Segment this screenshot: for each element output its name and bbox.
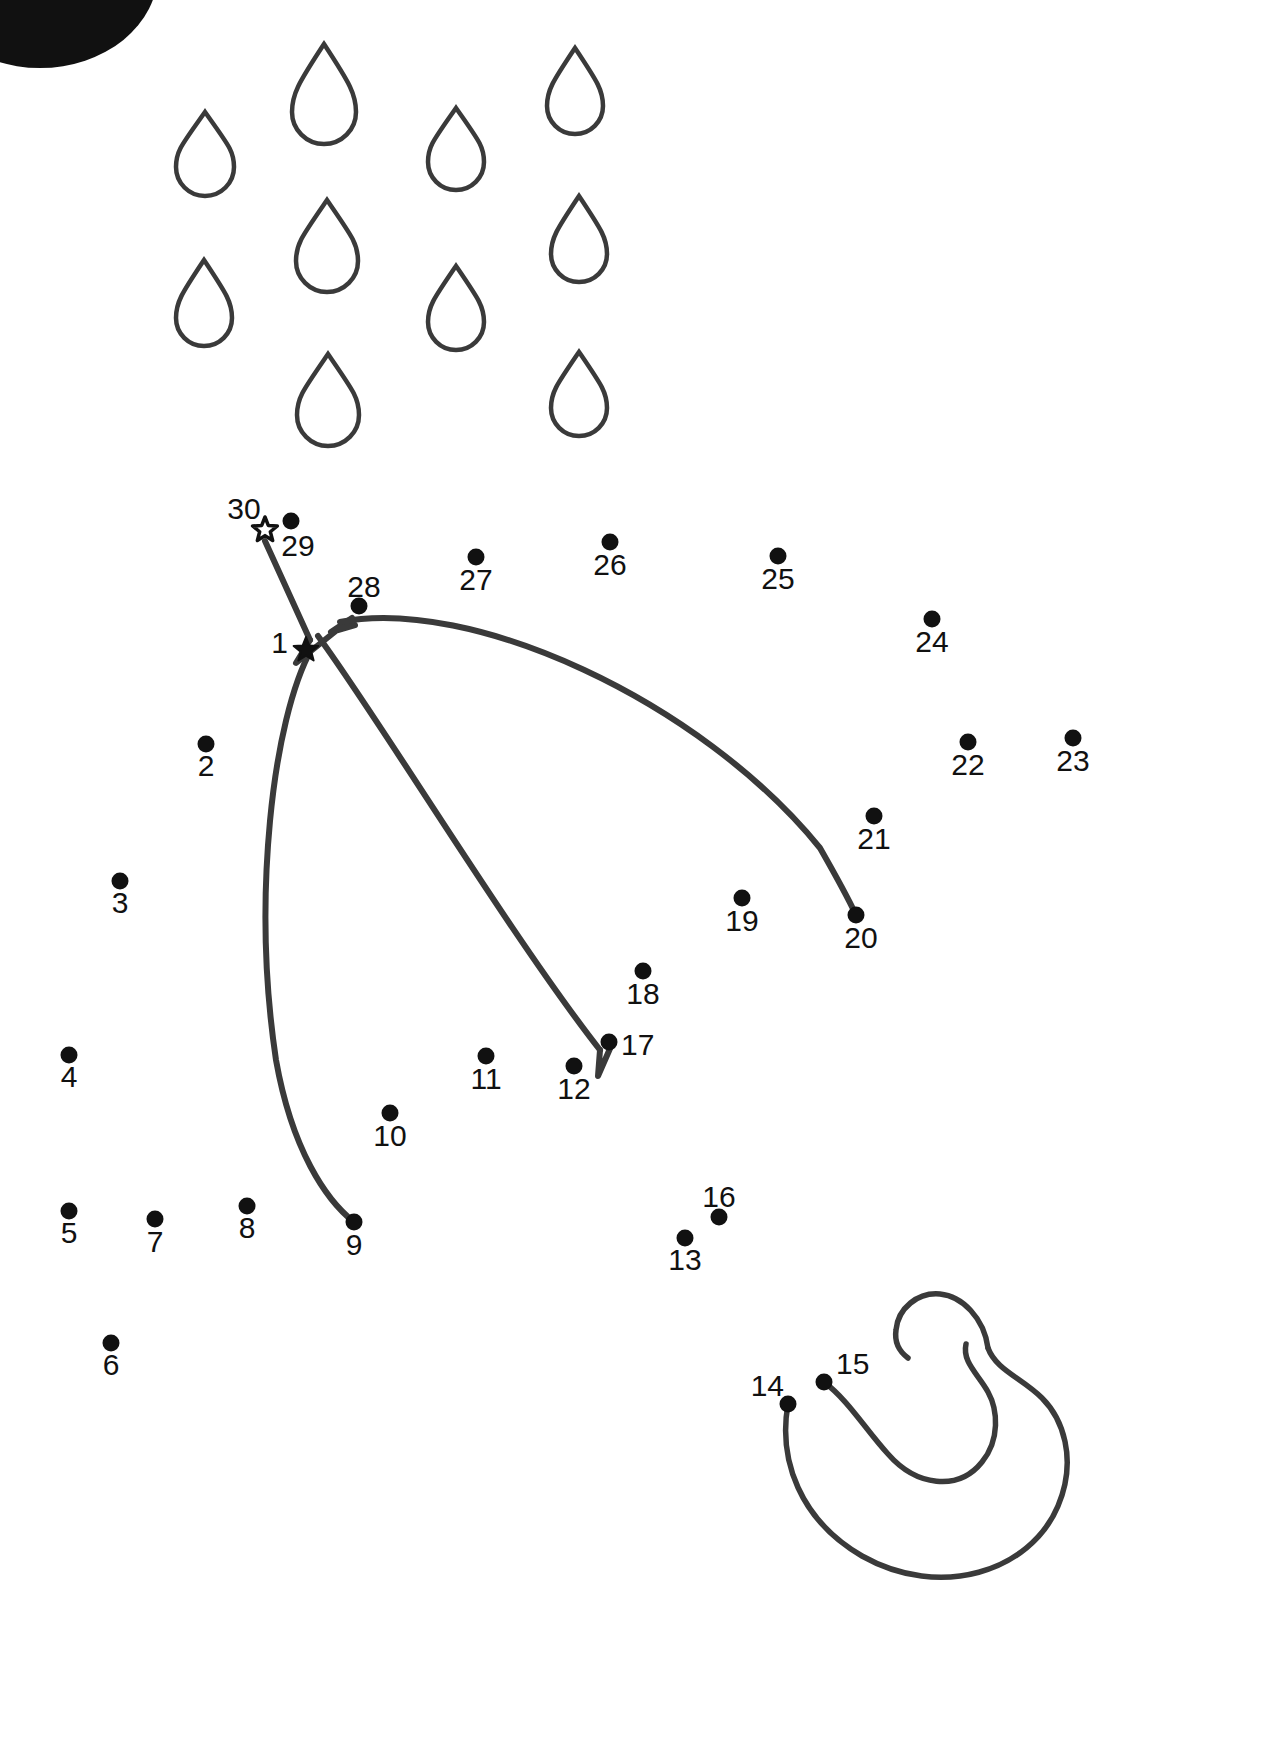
- dot-28[interactable]: 28: [347, 570, 380, 615]
- dot-21[interactable]: 21: [857, 808, 890, 856]
- dot-number-label: 16: [702, 1180, 735, 1213]
- dots-layer: 1234567891011121314151617181920212223242…: [61, 492, 1090, 1413]
- dot-29[interactable]: 29: [281, 513, 314, 563]
- cloud-layer: [0, 0, 158, 68]
- dot-number-label: 10: [373, 1119, 406, 1152]
- dot-11[interactable]: 11: [470, 1048, 501, 1096]
- dot-2[interactable]: 2: [198, 736, 215, 783]
- dot-30[interactable]: 30: [227, 492, 277, 541]
- dot-number-label: 26: [593, 548, 626, 581]
- dot-number-label: 3: [112, 886, 129, 919]
- dot-26[interactable]: 26: [593, 534, 626, 582]
- drawn-lines-layer: [265, 541, 856, 1222]
- dot-18[interactable]: 18: [626, 963, 659, 1011]
- raindrop-icon: [551, 352, 607, 436]
- dot-number-label: 15: [836, 1347, 869, 1380]
- raindrop-icon: [551, 196, 607, 282]
- dot-number-label: 11: [470, 1062, 501, 1095]
- dot-number-label: 19: [725, 904, 758, 937]
- dot-number-label: 8: [239, 1211, 256, 1244]
- dot-number-label: 7: [147, 1225, 164, 1258]
- umbrella-handle-layer: [786, 1294, 1068, 1577]
- puzzle-page: 1234567891011121314151617181920212223242…: [0, 0, 1277, 1758]
- dot-3[interactable]: 3: [112, 873, 129, 920]
- raindrop-icon: [428, 108, 484, 190]
- raindrop-icon: [547, 48, 603, 134]
- dot-number-label: 28: [347, 570, 380, 603]
- puzzle-canvas: 1234567891011121314151617181920212223242…: [0, 0, 1277, 1758]
- dot-23[interactable]: 23: [1056, 730, 1089, 778]
- handle-tip-cap: [896, 1294, 988, 1358]
- dot-number-label: 20: [844, 921, 877, 954]
- dot-7[interactable]: 7: [147, 1211, 164, 1259]
- stroke-rib-center: [318, 636, 600, 1050]
- dot-marker-circle[interactable]: [283, 513, 300, 530]
- dot-27[interactable]: 27: [459, 549, 492, 597]
- dot-12[interactable]: 12: [557, 1058, 590, 1106]
- dot-number-label: 24: [915, 625, 948, 658]
- stroke-canopy-left: [266, 648, 354, 1222]
- dot-number-label: 2: [198, 749, 215, 782]
- dot-16[interactable]: 16: [702, 1180, 735, 1226]
- dot-number-label: 12: [557, 1072, 590, 1105]
- dot-number-label: 6: [103, 1348, 120, 1381]
- raindrop-icon: [292, 44, 356, 144]
- dot-number-label: 17: [621, 1028, 654, 1061]
- dot-8[interactable]: 8: [239, 1198, 256, 1245]
- dot-9[interactable]: 9: [346, 1214, 363, 1262]
- dot-22[interactable]: 22: [951, 734, 984, 782]
- dot-number-label: 5: [61, 1216, 78, 1249]
- dot-number-label: 29: [281, 529, 314, 562]
- stroke-canopy-right: [340, 618, 856, 915]
- dot-number-label: 18: [626, 977, 659, 1010]
- dot-number-label: 23: [1056, 744, 1089, 777]
- raindrop-icon: [428, 266, 484, 350]
- raindrop-icon: [176, 112, 234, 196]
- dot-6[interactable]: 6: [103, 1335, 120, 1382]
- dot-marker-circle[interactable]: [601, 1034, 618, 1051]
- cloud-blob: [0, 0, 158, 68]
- dot-10[interactable]: 10: [373, 1105, 406, 1153]
- dot-marker-circle[interactable]: [816, 1374, 833, 1391]
- dot-number-label: 14: [751, 1369, 784, 1402]
- dot-number-label: 22: [951, 748, 984, 781]
- dot-number-label: 4: [61, 1060, 78, 1093]
- dot-number-label: 21: [857, 822, 890, 855]
- dot-number-label: 13: [668, 1243, 701, 1276]
- dot-number-label: 25: [761, 562, 794, 595]
- dot-number-label: 1: [271, 626, 288, 659]
- dot-15[interactable]: 15: [816, 1347, 870, 1391]
- dot-25[interactable]: 25: [761, 548, 794, 596]
- dot-24[interactable]: 24: [915, 611, 948, 659]
- dot-number-label: 9: [346, 1228, 363, 1261]
- dot-number-label: 30: [227, 492, 260, 525]
- dot-5[interactable]: 5: [61, 1203, 78, 1250]
- dot-19[interactable]: 19: [725, 890, 758, 938]
- raindrop-icon: [296, 200, 358, 292]
- dot-4[interactable]: 4: [61, 1047, 78, 1094]
- raindrop-icon: [297, 354, 359, 446]
- dot-number-label: 27: [459, 563, 492, 596]
- dot-14[interactable]: 14: [751, 1369, 797, 1413]
- dot-20[interactable]: 20: [844, 907, 877, 955]
- raindrops-layer: [176, 44, 607, 446]
- dot-13[interactable]: 13: [668, 1230, 701, 1277]
- raindrop-icon: [176, 260, 232, 346]
